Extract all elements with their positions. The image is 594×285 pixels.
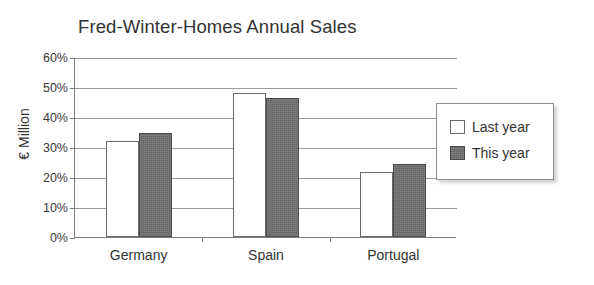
y-axis-tick-label: 30% xyxy=(43,141,68,155)
x-axis-tick xyxy=(330,237,331,242)
bar-germany-last-year xyxy=(106,141,139,237)
chart-legend: Last year This year xyxy=(436,103,554,180)
y-axis-tick-label: 10% xyxy=(43,201,68,215)
y-axis-tick-label: 60% xyxy=(43,51,68,65)
bar-group: Germany xyxy=(75,58,202,237)
x-axis-tick xyxy=(202,237,203,242)
y-axis-tick xyxy=(70,238,75,239)
bar-spain-last-year xyxy=(233,93,266,237)
legend-label-last-year: Last year xyxy=(472,119,530,135)
legend-item-last-year: Last year xyxy=(450,119,530,135)
y-axis-tick-label: 50% xyxy=(43,81,68,95)
legend-swatch-this-year-icon xyxy=(450,146,465,160)
bar-group: Spain xyxy=(202,58,329,237)
legend-swatch-last-year-icon xyxy=(450,120,465,134)
bar-portugal-last-year xyxy=(360,172,393,237)
bar-spain-this-year xyxy=(266,98,299,238)
y-axis-tick-label: 20% xyxy=(43,171,68,185)
chart-title: Fred-Winter-Homes Annual Sales xyxy=(78,16,357,38)
bar-chart: Fred-Winter-Homes Annual Sales € Million… xyxy=(0,0,594,285)
legend-item-this-year: This year xyxy=(450,145,530,161)
x-axis-label-germany: Germany xyxy=(110,247,168,263)
y-axis-tick-label: 40% xyxy=(43,111,68,125)
x-axis-label-spain: Spain xyxy=(248,247,284,263)
y-axis-title: € Million xyxy=(16,89,32,179)
plot-area: 0%10%20%30%40%50%60%GermanySpainPortugal xyxy=(74,58,456,238)
bar-portugal-this-year xyxy=(393,164,426,237)
x-axis-label-portugal: Portugal xyxy=(367,247,419,263)
y-axis-tick-label: 0% xyxy=(50,231,68,245)
bar-germany-this-year xyxy=(139,133,172,237)
legend-label-this-year: This year xyxy=(472,145,530,161)
